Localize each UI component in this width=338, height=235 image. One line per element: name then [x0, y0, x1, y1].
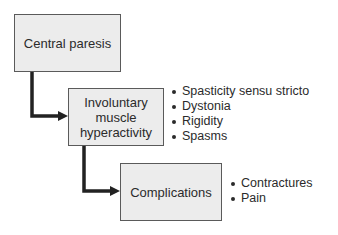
node-label: Central paresis	[24, 36, 111, 51]
node-label: Complications	[130, 185, 212, 200]
node-label-line: Involuntary	[80, 95, 152, 110]
bullet-item: Rigidity	[172, 114, 309, 129]
bullet-item: Spasticity sensu stricto	[172, 84, 309, 99]
arrowhead-icon	[58, 111, 68, 121]
node-label-line: muscle	[80, 110, 152, 125]
hyperactivity-bullet-list: Spasticity sensu stricto Dystonia Rigidi…	[172, 84, 309, 144]
arrowhead-icon	[110, 186, 120, 196]
bullet-item: Contractures	[231, 176, 313, 191]
node-central-paresis: Central paresis	[14, 14, 121, 72]
connector-central-to-hyperactivity	[32, 72, 68, 121]
node-involuntary-muscle-hyperactivity: Involuntary muscle hyperactivity	[68, 88, 164, 146]
bullet-item: Pain	[231, 191, 313, 206]
bullet-item: Dystonia	[172, 99, 309, 114]
node-complications: Complications	[120, 163, 222, 221]
connector-hyperactivity-to-complications	[84, 146, 120, 196]
bullet-item: Spasms	[172, 129, 309, 144]
node-label-line: hyperactivity	[80, 125, 152, 140]
complications-bullet-list: Contractures Pain	[231, 176, 313, 206]
